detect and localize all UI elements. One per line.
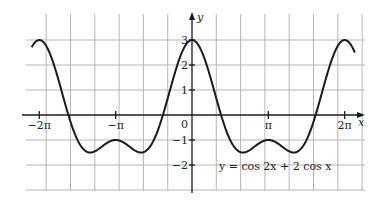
chart-canvas: −2π−ππ2π321−1−2 x y 0 y = cos 2x + 2 cos… xyxy=(0,0,384,202)
x-tick-label: 2π xyxy=(338,119,352,132)
y-tick-label: −2 xyxy=(172,159,188,172)
x-tick-label: −π xyxy=(107,119,123,132)
y-axis-arrow-icon xyxy=(189,12,195,20)
y-tick-label: 1 xyxy=(181,84,188,97)
y-tick-label: 2 xyxy=(181,59,188,72)
y-axis-label: y xyxy=(196,11,204,24)
y-tick-label: −1 xyxy=(172,134,188,147)
x-axis-label: x xyxy=(358,116,365,129)
function-annotation: y = cos 2x + 2 cos x xyxy=(218,160,332,173)
function-curve xyxy=(32,40,355,152)
x-tick-label: π xyxy=(265,119,272,132)
origin-label: 0 xyxy=(181,118,188,131)
y-tick-label: 3 xyxy=(181,34,188,47)
tick-labels: −2π−ππ2π321−1−2 xyxy=(28,34,352,172)
x-tick-label: −2π xyxy=(28,119,51,132)
